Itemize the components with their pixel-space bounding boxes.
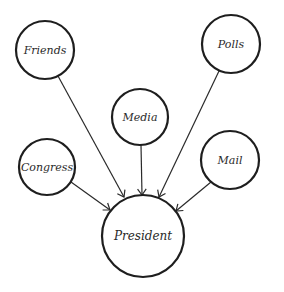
influence-diagram: FriendsPollsMediaCongressMailPresident xyxy=(0,0,284,292)
edge-media-to-president xyxy=(138,145,147,195)
edge-line xyxy=(176,182,211,211)
node-label: President xyxy=(113,229,172,243)
node-label: Friends xyxy=(23,44,67,57)
node-label: Polls xyxy=(217,38,245,51)
edge-mail-to-president xyxy=(176,182,211,211)
node-media: Media xyxy=(112,89,168,145)
nodes-layer: FriendsPollsMediaCongressMailPresident xyxy=(16,15,260,277)
edge-congress-to-president xyxy=(71,182,110,210)
node-polls: Polls xyxy=(202,15,260,73)
node-mail: Mail xyxy=(201,131,259,189)
edge-line xyxy=(141,145,142,195)
node-friends: Friends xyxy=(16,21,74,79)
node-congress: Congress xyxy=(19,139,75,195)
node-label: Media xyxy=(122,111,158,124)
node-label: Congress xyxy=(21,161,74,174)
node-president: President xyxy=(102,195,184,277)
edge-line xyxy=(71,182,110,210)
node-label: Mail xyxy=(217,154,243,167)
